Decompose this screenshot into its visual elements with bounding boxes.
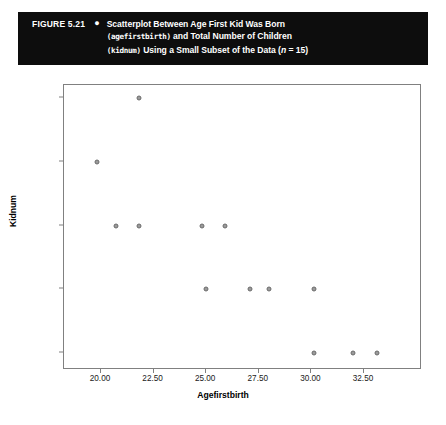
data-point [94,159,99,164]
x-tick-label: 22.50 [142,374,163,383]
x-tick-label: 32.50 [353,374,374,383]
plot-frame [63,84,421,369]
data-point [223,223,228,228]
x-tick-mark [153,369,154,373]
data-point [267,287,272,292]
data-point [351,351,356,356]
y-tick-mark [59,160,63,161]
x-tick-label: 20.00 [90,374,111,383]
y-tick-mark [59,224,63,225]
x-tick-mark [258,369,259,373]
data-point [374,351,379,356]
x-tick-mark [310,369,311,373]
x-axis-title: Agefirstbirth [0,390,446,400]
x-tick-mark [100,369,101,373]
scatterplot: 1.002.003.004.005.00 Kidnum Agefirstbirt… [0,0,446,425]
x-tick-label: 27.50 [248,374,269,383]
x-tick-label: 30.00 [300,374,321,383]
data-point [136,223,141,228]
data-point [199,223,204,228]
y-tick-mark [59,97,63,98]
data-point [113,223,118,228]
x-tick-label: 25.00 [195,374,216,383]
y-axis-title: Kidnum [8,195,18,227]
y-tick-mark [59,352,63,353]
data-point [248,287,253,292]
data-point [311,351,316,356]
y-tick-mark [59,288,63,289]
x-tick-mark [363,369,364,373]
x-tick-mark [205,369,206,373]
data-point [204,287,209,292]
data-point [311,287,316,292]
data-point [136,96,141,101]
